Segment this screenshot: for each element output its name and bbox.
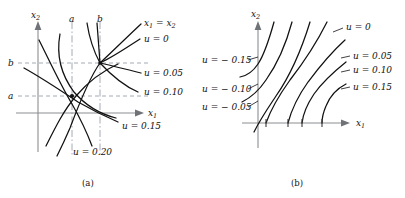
x-axis-arrowhead (135, 110, 144, 117)
label-u-neg-015-panel-b: u = − 0.15 (202, 55, 252, 65)
label-u-015-panel-a: u = 0.15 (122, 121, 161, 131)
tick-label-a-vertical-axis: a (8, 91, 13, 101)
label-u-neg-005-panel-b: u = − 0.05 (202, 102, 252, 112)
panel-a-plot: x2 x1 b a a b x1 = x2 u = 0 u = 0.05 u =… (0, 0, 203, 198)
leader-u-005 (341, 56, 350, 58)
fan-vertex-b-b (98, 61, 102, 65)
leader-u-010 (341, 70, 350, 72)
label-u-010-panel-b: u = 0.10 (353, 65, 392, 75)
panel-a-caption: (a) (82, 178, 94, 188)
label-u-neg-010-panel-b: u = − 0.10 (202, 84, 252, 94)
panel-a: x2 x1 b a a b x1 = x2 u = 0 u = 0.05 u =… (0, 0, 203, 198)
curve-u-005-panel-b (288, 40, 345, 123)
label-diagonal-x1-eq-x2: x1 = x2 (144, 18, 176, 30)
curve-u-neg-015-panel-b (240, 22, 274, 77)
tick-label-b-vertical-axis: b (8, 58, 14, 68)
curve-u-0-panel-a (100, 39, 140, 63)
label-u-015-panel-b: u = 0.15 (353, 82, 392, 92)
y-axis-arrowhead (255, 21, 262, 30)
curve-diagonal-lower-branch (57, 63, 100, 156)
tick-label-a-horizontal-axis: a (69, 14, 74, 24)
label-u-005-panel-b: u = 0.05 (353, 51, 392, 61)
y-axis-label: x2 (251, 9, 260, 21)
curve-family-left-upper (59, 34, 116, 118)
crossing-point-a-a (70, 94, 74, 98)
curve-u-015-panel-b (322, 84, 346, 123)
panel-b: x2 x1 u = − 0.15 u = − 0.10 u = − 0.05 u… (200, 0, 405, 198)
x-axis-label: x1 (356, 118, 365, 130)
label-u-005-panel-a: u = 0.05 (144, 68, 183, 78)
y-axis-arrowhead (35, 21, 42, 30)
x-axis-arrowhead (341, 120, 350, 127)
panel-b-plot: x2 x1 u = − 0.15 u = − 0.10 u = − 0.05 u… (200, 0, 405, 198)
panel-b-caption: (b) (291, 178, 303, 188)
curve-u-005-panel-a (100, 63, 141, 73)
curve-diagonal-x1-eq-x2 (100, 24, 141, 63)
tick-label-b-horizontal-axis: b (97, 14, 103, 24)
leader-u-0 (333, 28, 343, 32)
label-u-010-panel-a: u = 0.10 (144, 87, 183, 97)
label-u-0-panel-b: u = 0 (346, 22, 371, 32)
leader-u-015 (341, 87, 350, 89)
curve-u-neg-005-panel-b (254, 22, 310, 132)
x-axis-label: x1 (148, 108, 157, 120)
curve-u-010-panel-b (302, 62, 346, 123)
figure-container: x2 x1 b a a b x1 = x2 u = 0 u = 0.05 u =… (0, 0, 405, 198)
label-u-020-panel-a: u = 0.20 (73, 147, 112, 157)
curve-u-0-panel-b (266, 22, 327, 123)
label-u-0-panel-a: u = 0 (144, 34, 169, 44)
y-axis-label: x2 (31, 10, 40, 22)
